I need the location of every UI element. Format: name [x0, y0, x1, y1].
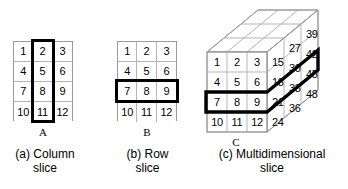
table-row: 1 2 3: [14, 42, 72, 62]
cell: 9: [247, 92, 267, 112]
cell: 24: [272, 117, 284, 128]
cell: 27: [289, 43, 301, 54]
table-row: 4 5 6: [118, 62, 176, 82]
cell: 3: [157, 42, 176, 62]
table-row: 1 2 3: [118, 42, 176, 62]
cell: 5: [227, 72, 247, 92]
cell: 36: [289, 103, 301, 114]
cell: 4: [207, 72, 227, 92]
cell: 11: [227, 112, 247, 132]
cell: 1: [118, 42, 137, 62]
panel-caption-a: (a) Column slice: [0, 147, 90, 175]
cell: 4: [14, 62, 33, 82]
panel-letter-a: A: [23, 126, 63, 138]
grid-b: 1 2 3 4 5 6 7 8 9 10 11 12: [117, 41, 177, 121]
cell: 8: [227, 92, 247, 112]
cell: 12: [157, 102, 176, 122]
cell: 10: [14, 102, 33, 122]
cell: 9: [157, 82, 176, 102]
cell: 10: [118, 102, 137, 122]
cell: 6: [157, 62, 176, 82]
cell: 42: [306, 49, 318, 60]
cell: 15: [272, 57, 284, 68]
table-row: 7 8 9: [118, 82, 176, 102]
cell: 1: [207, 52, 227, 72]
cell: 7: [207, 92, 227, 112]
cell: 3: [247, 52, 267, 72]
cell: 9: [53, 82, 72, 102]
cell: 48: [306, 89, 318, 100]
cell: 30: [289, 63, 301, 74]
cell: 5: [137, 62, 156, 82]
cell: 8: [33, 82, 52, 102]
table-row: 10 11 12: [14, 102, 72, 122]
slice-figure: 1 2 3 4 5 6 7 8 9 10 11 12 A (a) Column …: [0, 0, 348, 189]
grid-a: 1 2 3 4 5 6 7 8 9 10 11 12: [13, 41, 73, 121]
cell: 6: [53, 62, 72, 82]
cell: 3: [53, 42, 72, 62]
table-row: 10 11 12: [118, 102, 176, 122]
panel-letter-b: B: [127, 126, 167, 138]
cell: 12: [247, 112, 267, 132]
cell: 2: [227, 52, 247, 72]
cell: 8: [137, 82, 156, 102]
cube-c: 1 2 3 4 5 6 7 8 9 10 11 12 15 27 39 18 3…: [196, 2, 348, 142]
cell: 12: [53, 102, 72, 122]
cell: 18: [272, 77, 284, 88]
panel-caption-b: (b) Row slice: [105, 147, 190, 175]
cell: 11: [137, 102, 156, 122]
cell: 11: [33, 102, 52, 122]
cell: 2: [33, 42, 52, 62]
cell: 39: [306, 29, 318, 40]
table-row: 7 8 9: [14, 82, 72, 102]
cell: 33: [289, 83, 301, 94]
cell: 2: [137, 42, 156, 62]
cell: 21: [272, 97, 284, 108]
cell: 5: [33, 62, 52, 82]
cell: 1: [14, 42, 33, 62]
cell: 4: [118, 62, 137, 82]
panel-caption-c: (c) Multidimensional slice: [196, 147, 348, 175]
table-row: 4 5 6: [14, 62, 72, 82]
cell: 45: [306, 69, 318, 80]
cell: 7: [14, 82, 33, 102]
cell: 6: [247, 72, 267, 92]
cell: 7: [118, 82, 137, 102]
cell: 10: [207, 112, 227, 132]
